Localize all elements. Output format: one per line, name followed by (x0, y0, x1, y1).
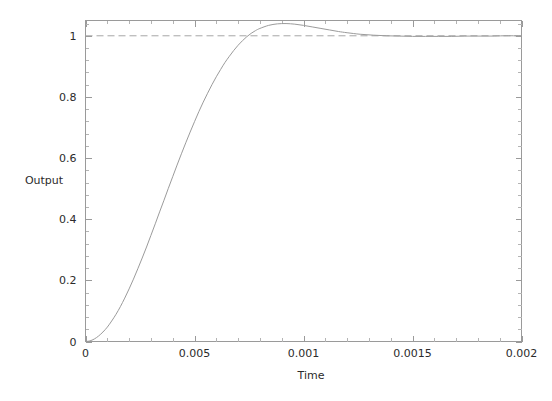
plot-frame (86, 21, 522, 342)
x-tick-label: 0.005 (179, 347, 211, 360)
x-axis-label: Time (297, 369, 325, 382)
data-series-line (86, 24, 522, 342)
x-tick-label: 0 (82, 347, 89, 360)
y-tick-label: 0.8 (59, 91, 77, 104)
y-axis-ticks (86, 25, 522, 343)
x-axis-tick-labels: 00.0050.0010.00150.002 (82, 347, 537, 360)
data-series-group (86, 24, 522, 342)
y-tick-label: 0.2 (59, 274, 77, 287)
y-tick-label: 1 (70, 30, 77, 43)
y-axis-tick-labels: 00.20.40.60.81 (59, 30, 77, 349)
x-axis-ticks (87, 21, 523, 342)
y-tick-label: 0 (70, 336, 77, 349)
y-tick-label: 0.4 (59, 213, 77, 226)
x-tick-label: 0.0015 (393, 347, 432, 360)
x-tick-label: 0.002 (506, 347, 538, 360)
step-response-chart: 00.0050.0010.00150.002 00.20.40.60.81 Ti… (0, 0, 552, 401)
y-axis-label: Output (25, 174, 64, 187)
y-tick-label: 0.6 (59, 152, 77, 165)
x-tick-label: 0.001 (288, 347, 320, 360)
plot-root: 00.0050.0010.00150.002 00.20.40.60.81 Ti… (0, 0, 552, 401)
